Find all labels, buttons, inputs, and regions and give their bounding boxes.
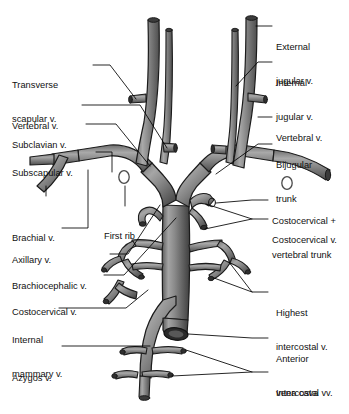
label-line: Internal	[276, 78, 313, 89]
label-line: Transverse	[12, 80, 58, 91]
left-internal-jugular-vessel	[136, 18, 159, 166]
leader-costocervical-right2	[205, 219, 252, 229]
label-line: Costocervical v.	[272, 235, 337, 246]
label-line: External	[276, 42, 313, 53]
label-line: Bijugular	[276, 160, 312, 171]
label-line: Azygos v.	[12, 373, 52, 384]
transverse-scapular-vein-vessel	[129, 94, 146, 103]
label-line: Internal	[12, 335, 62, 346]
label-subscapular-vein: Subscapular v.	[12, 146, 73, 202]
leader-intercostal-vv	[186, 350, 268, 372]
leader-transverse-scapular	[93, 65, 136, 99]
label-line: First rib	[104, 231, 135, 242]
label-azygos-vein: Azygos v.	[12, 351, 52, 407]
label-costocervical-vein-right: Costocervical v.	[272, 213, 337, 269]
label-line: Subscapular v.	[12, 168, 73, 179]
internal-mammary-vein-vessel	[138, 207, 163, 226]
label-line: Intercostal vv.	[276, 388, 333, 399]
leader-costocervical-trunk	[216, 200, 268, 203]
anatomy-figure: Transverse scapular v. Vertebral v. Subc…	[0, 0, 349, 414]
highest-intercostal-vein-vessel	[189, 240, 251, 281]
leader-intercostal-vv2	[172, 372, 252, 376]
leader-costocervical-right	[206, 204, 268, 219]
right-vertebral-vein-vessel	[248, 93, 267, 103]
bijugular-trunk-vessel	[211, 145, 226, 154]
label-line: Highest	[276, 308, 328, 319]
label-intercostal-veins: Intercostal vv.	[276, 366, 333, 414]
label-first-rib: First rib	[104, 209, 135, 265]
label-line: Anterior	[276, 354, 318, 365]
costocervical-vein-vessel	[189, 208, 207, 230]
first-rib-cross-section-left	[119, 171, 129, 184]
leader-anterior-vena-cava	[188, 334, 268, 338]
leader-highest-intercostal	[229, 262, 268, 292]
